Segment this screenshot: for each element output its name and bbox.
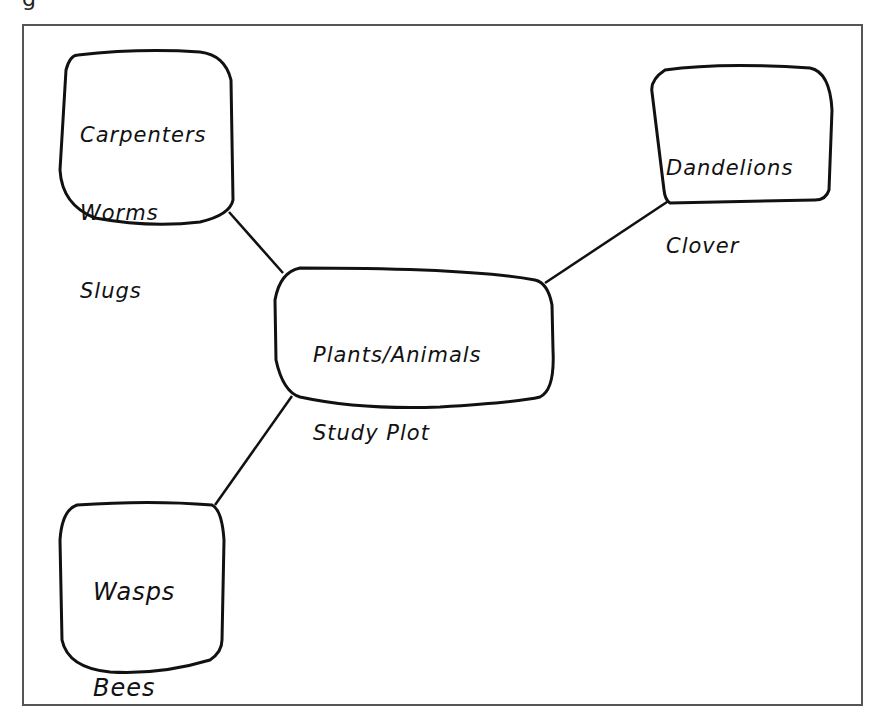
node-text-line: Study Plot (313, 420, 482, 446)
node-text-line: Clover (666, 233, 793, 259)
edge-center-top-left (229, 212, 283, 273)
node-text-line: Carpenters (80, 122, 206, 148)
node-label-top-left: Carpenters Worms Slugs (80, 70, 206, 330)
node-text-line: Slugs (80, 278, 206, 304)
node-text-line: Wasps (93, 576, 175, 608)
edge-center-bottom-left (215, 396, 292, 505)
node-text-line: Worms (80, 200, 206, 226)
node-label-top-right: Dandelions Clover (666, 103, 793, 285)
node-text-line: Bees (93, 672, 175, 704)
node-text-line: Plants/Animals (313, 342, 482, 368)
node-text-line: Dandelions (666, 155, 793, 181)
node-label-bottom-left: Wasps Bees (93, 512, 175, 724)
edge-center-top-right (545, 200, 670, 283)
node-label-center: Plants/Animals Study Plot (313, 290, 482, 472)
